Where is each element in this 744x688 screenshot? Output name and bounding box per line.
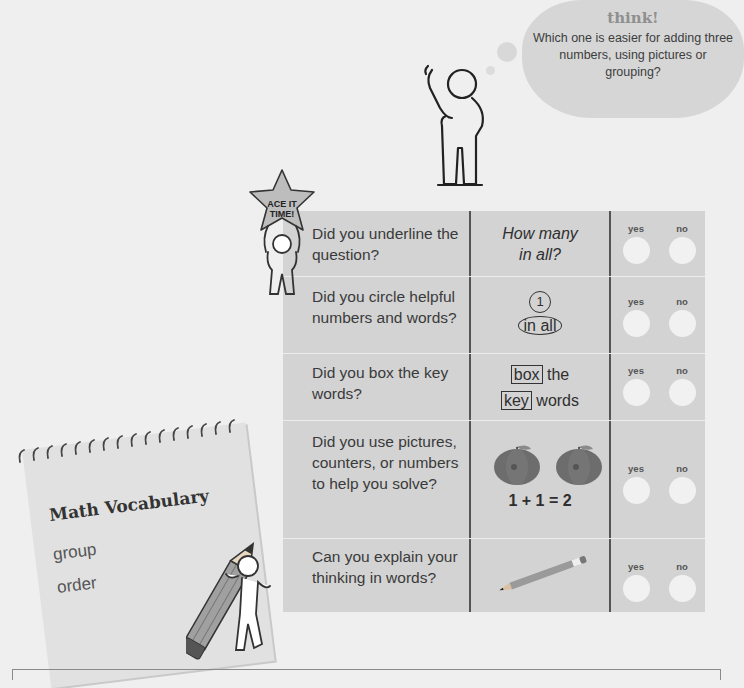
example-word: the xyxy=(547,366,569,383)
yes-radio[interactable] xyxy=(623,237,650,264)
no-radio[interactable] xyxy=(669,310,696,337)
badge-line: ACE IT xyxy=(261,199,303,209)
question-underline: Did you underline the question? xyxy=(312,223,472,265)
example-pictures: 1 + 1 = 2 xyxy=(471,437,609,510)
think-prompt: Which one is easier for adding three num… xyxy=(532,30,734,81)
spiral-binding-icon xyxy=(12,416,252,466)
example-line: in all? xyxy=(471,244,609,265)
question-circle: Did you circle helpful numbers and words… xyxy=(312,286,472,328)
row-divider xyxy=(283,420,705,421)
boxed-word: key xyxy=(501,391,532,410)
yes-label: yes xyxy=(623,365,649,376)
circled-number: 1 xyxy=(529,291,551,313)
question-box: Did you box the key words? xyxy=(312,362,472,404)
no-label: no xyxy=(669,223,695,234)
example-word: words xyxy=(536,392,579,409)
yes-label: yes xyxy=(623,561,649,572)
column-divider xyxy=(609,211,611,612)
question-explain: Can you explain your thinking in words? xyxy=(312,546,472,588)
no-label: no xyxy=(669,463,695,474)
no-radio[interactable] xyxy=(669,575,696,602)
row-divider xyxy=(283,353,705,354)
ace-it-badge-text: ACE IT TIME! xyxy=(261,199,303,219)
example-circle: 1 in all xyxy=(471,291,609,335)
row-divider xyxy=(283,276,705,277)
question-pictures: Did you use pictures, counters, or numbe… xyxy=(312,431,472,494)
example-explain xyxy=(471,556,609,600)
waving-figure-icon xyxy=(418,60,498,190)
yes-label: yes xyxy=(623,223,649,234)
yes-label: yes xyxy=(623,296,649,307)
yes-radio[interactable] xyxy=(623,310,650,337)
example-line: How many xyxy=(471,223,609,244)
boxed-word: box xyxy=(511,365,543,384)
row-divider xyxy=(283,538,705,539)
figure-with-pencil-icon xyxy=(186,540,286,670)
yes-radio[interactable] xyxy=(623,379,650,406)
badge-line: TIME! xyxy=(261,209,303,219)
checklist-table: Did you underline the question? How many… xyxy=(283,211,705,612)
circled-phrase: in all xyxy=(518,316,563,335)
example-underline: How many in all? xyxy=(471,223,609,265)
no-label: no xyxy=(669,561,695,572)
no-radio[interactable] xyxy=(669,477,696,504)
no-radio[interactable] xyxy=(669,379,696,406)
yes-radio[interactable] xyxy=(623,477,650,504)
page-frame xyxy=(12,669,721,680)
pencil-icon xyxy=(471,556,609,596)
no-label: no xyxy=(669,296,695,307)
thought-dot xyxy=(497,42,517,62)
equation: 1 + 1 = 2 xyxy=(471,492,609,510)
ace-it-star-icon xyxy=(244,168,320,298)
apple-icon xyxy=(471,437,609,485)
example-box: box the key words xyxy=(471,363,609,413)
yes-radio[interactable] xyxy=(623,575,650,602)
no-radio[interactable] xyxy=(669,237,696,264)
no-label: no xyxy=(669,365,695,376)
yes-label: yes xyxy=(623,463,649,474)
think-title: think! xyxy=(522,9,744,27)
